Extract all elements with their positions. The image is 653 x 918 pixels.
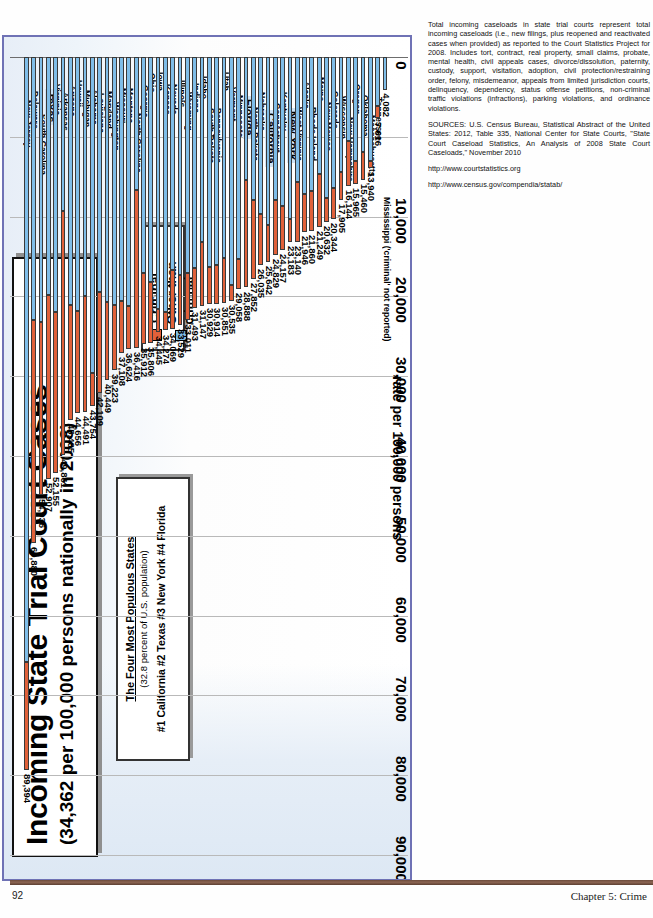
bar-segment-criminal bbox=[258, 214, 263, 265]
bar-segment-criminal bbox=[317, 174, 322, 227]
bar-row bbox=[97, 57, 102, 393]
bar-segment-criminal bbox=[61, 212, 66, 455]
bar-row bbox=[141, 57, 146, 344]
bar-row bbox=[258, 57, 263, 265]
bar-row bbox=[280, 57, 285, 250]
bar-row bbox=[244, 57, 249, 288]
bar-row bbox=[251, 57, 256, 279]
bar-segment-criminal bbox=[302, 194, 307, 232]
bar-segment-other-than-criminal bbox=[126, 57, 131, 306]
bar-segment-criminal bbox=[353, 161, 358, 184]
note-sources: SOURCES: U.S. Census Bureau, Statistical… bbox=[428, 120, 650, 157]
bar-row bbox=[266, 57, 271, 262]
bar-segment-other-than-criminal bbox=[317, 57, 322, 174]
bar-segment-criminal bbox=[295, 182, 300, 242]
bar-segment-criminal bbox=[178, 275, 183, 324]
bar-segment-criminal bbox=[375, 106, 380, 118]
bar-segment-other-than-criminal bbox=[273, 57, 278, 200]
bar-row bbox=[192, 57, 197, 308]
bar-row bbox=[339, 57, 344, 200]
bar-segment-other-than-criminal bbox=[105, 57, 110, 302]
bar-row bbox=[119, 57, 124, 353]
bar-row bbox=[148, 57, 153, 343]
bar-segment-other-than-criminal bbox=[200, 57, 205, 242]
bar-segment-criminal bbox=[141, 273, 146, 343]
bar-segment-criminal bbox=[207, 267, 212, 304]
bar-segment-criminal bbox=[156, 309, 161, 332]
bar-segment-criminal bbox=[170, 270, 175, 329]
bar-row bbox=[288, 57, 293, 242]
bar-segment-other-than-criminal bbox=[324, 57, 329, 198]
bar-segment-criminal bbox=[288, 219, 293, 242]
bar-segment-criminal bbox=[309, 191, 314, 232]
bar-segment-other-than-criminal bbox=[258, 57, 263, 214]
bar-segment-criminal bbox=[83, 296, 88, 413]
bar-row bbox=[75, 57, 80, 413]
bar-segment-other-than-criminal bbox=[288, 57, 293, 219]
bar-segment-other-than-criminal bbox=[236, 57, 241, 259]
bar-segment-criminal bbox=[24, 662, 29, 771]
bar-segment-other-than-criminal bbox=[185, 57, 190, 273]
bar-row bbox=[200, 57, 205, 306]
bar-row bbox=[39, 57, 44, 495]
bar-segment-criminal bbox=[163, 312, 168, 330]
bar-row bbox=[309, 57, 314, 231]
bar-segment-criminal bbox=[112, 305, 117, 370]
bar-row bbox=[317, 57, 322, 227]
bar-segment-criminal bbox=[119, 301, 124, 353]
bar-row bbox=[90, 57, 95, 406]
bar-segment-other-than-criminal bbox=[214, 57, 219, 265]
bar-segment-criminal bbox=[244, 180, 249, 288]
bar-segment-criminal bbox=[31, 320, 36, 543]
bar-row bbox=[229, 57, 234, 301]
bar-row bbox=[68, 57, 73, 420]
bar-segment-criminal bbox=[105, 302, 110, 380]
bar-segment-other-than-criminal bbox=[280, 57, 285, 206]
note-link-census[interactable]: http://www.census.gov/compendia/statab/ bbox=[428, 180, 650, 189]
bar-segment-criminal bbox=[339, 172, 344, 200]
note-link-courtstatistics[interactable]: http://www.courtstatistics.org bbox=[428, 164, 650, 173]
bar-segment-criminal bbox=[331, 188, 336, 219]
bar-row bbox=[83, 57, 88, 412]
bar-segment-criminal bbox=[75, 311, 80, 413]
bar-row bbox=[222, 57, 227, 303]
bar-segment-criminal bbox=[200, 242, 205, 306]
bar-row bbox=[383, 57, 388, 90]
bar-row bbox=[368, 57, 373, 168]
bar-segment-other-than-criminal bbox=[229, 57, 234, 286]
bar-row bbox=[295, 57, 300, 242]
bar-segment-other-than-criminal bbox=[309, 57, 314, 191]
bar-row bbox=[170, 57, 175, 329]
bar-segment-criminal bbox=[266, 225, 271, 262]
bar-segment-criminal bbox=[222, 258, 227, 303]
bar-segment-criminal bbox=[324, 198, 329, 222]
footer-rule bbox=[10, 880, 653, 885]
bar-value-label: 89,394 bbox=[22, 774, 33, 803]
bar-segment-other-than-criminal bbox=[244, 57, 249, 180]
bar-row bbox=[46, 57, 51, 479]
bar-segment-other-than-criminal bbox=[383, 57, 388, 90]
bar-segment-criminal bbox=[368, 161, 373, 168]
bar-row bbox=[214, 57, 219, 304]
bar-segment-other-than-criminal bbox=[346, 57, 351, 141]
bar-segment-other-than-criminal bbox=[97, 57, 102, 292]
bar-segment-other-than-criminal bbox=[75, 57, 80, 311]
bar-row bbox=[24, 57, 29, 770]
bar-segment-criminal bbox=[236, 259, 241, 289]
bar-segment-other-than-criminal bbox=[61, 57, 66, 212]
bar-segment-other-than-criminal bbox=[295, 57, 300, 182]
bar-row bbox=[156, 57, 161, 332]
bar-segment-criminal bbox=[251, 200, 256, 279]
bar-segment-criminal bbox=[68, 305, 73, 420]
bar-segment-other-than-criminal bbox=[134, 57, 139, 190]
bar-series: 89,394New Jersey60,880Delaware54,936Sout… bbox=[24, 57, 390, 855]
notes-column: Total incoming caseloads in state trial … bbox=[428, 20, 650, 197]
bar-segment-other-than-criminal bbox=[68, 57, 73, 305]
bar-row bbox=[331, 57, 336, 219]
bar-segment-other-than-criminal bbox=[53, 57, 58, 312]
bar-segment-other-than-criminal bbox=[192, 57, 197, 268]
bar-value-label: 49,861 bbox=[59, 459, 70, 488]
bar-segment-criminal bbox=[148, 282, 153, 343]
bar-row bbox=[126, 57, 131, 349]
gridline bbox=[10, 855, 408, 856]
